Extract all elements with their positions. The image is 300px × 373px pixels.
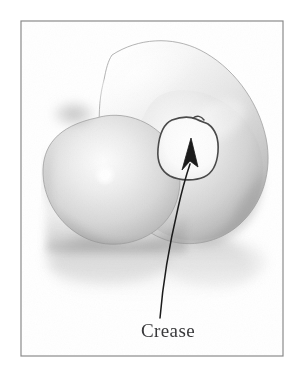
figure-canvas: Crease <box>0 0 300 373</box>
figure-root: Crease <box>0 0 300 373</box>
paper-grain <box>22 22 282 355</box>
